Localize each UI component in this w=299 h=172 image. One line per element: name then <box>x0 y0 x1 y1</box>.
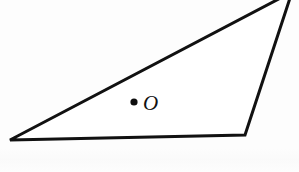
figure-canvas: O <box>0 0 299 172</box>
geometry-figure: O <box>0 0 299 172</box>
interior-point-label: O <box>143 91 158 115</box>
interior-point-dot <box>130 98 137 105</box>
triangle-shape <box>10 0 292 140</box>
